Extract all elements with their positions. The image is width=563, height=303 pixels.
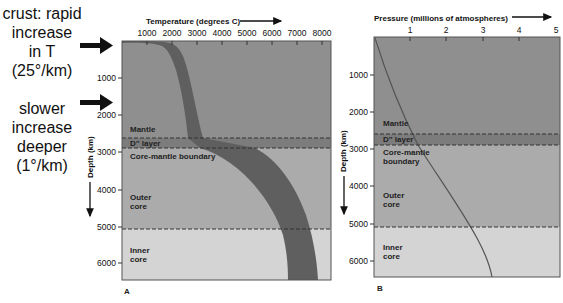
panel-b-y-ticks	[370, 75, 374, 261]
x-tick-label: 7000	[288, 28, 307, 38]
x-tick-label: 3	[481, 25, 486, 35]
outer-core-label: Outer	[130, 193, 151, 202]
x-tick-label: 4	[517, 25, 522, 35]
y-tick-label: 1000	[349, 70, 368, 80]
x-tick-label: 2000	[163, 28, 182, 38]
x-tick-label: 2	[444, 25, 449, 35]
x-axis-title: Pressure (millions of atmospheres)	[374, 14, 508, 23]
d-layer-label: D" layer	[383, 135, 413, 144]
y-axis-title: Depth (km)	[86, 136, 95, 178]
y-tick-label: 4000	[349, 181, 368, 191]
cmb-label: Core-mantle boundary	[130, 152, 216, 161]
d-layer-label: D" layer	[130, 139, 160, 148]
mantle-label: Mantle	[130, 125, 156, 134]
panel-a-temperature: 1000 2000 3000 4000 5000 6000 7000 8000 …	[86, 17, 332, 296]
y-axis-title: Depth (km)	[339, 130, 348, 172]
y-tick-label: 1000	[97, 73, 116, 83]
mantle-label: Mantle	[383, 119, 409, 128]
outer-core-label: core	[130, 202, 147, 211]
panel-b-letter: B	[377, 284, 383, 293]
y-tick-label: 5000	[97, 222, 116, 232]
inner-core-label: Inner	[130, 246, 150, 255]
crust-arrow-icon	[80, 37, 113, 54]
inner-core-label: core	[383, 252, 400, 261]
panel-a-y-ticks	[118, 78, 122, 263]
outer-core-label: Outer	[383, 191, 404, 200]
y-tick-label: 2000	[97, 110, 116, 120]
y-tick-label: 3000	[97, 147, 116, 157]
x-axis-title: Temperature (degrees C)	[146, 17, 240, 26]
y-tick-label: 3000	[349, 144, 368, 154]
inner-core-label: Inner	[383, 243, 403, 252]
deeper-arrow-icon	[80, 94, 113, 111]
y-tick-label: 6000	[97, 258, 116, 268]
panel-b-pressure: 1 2 3 4 5 Pressure (millions of atmosphe…	[339, 14, 560, 293]
x-tick-label: 5	[554, 25, 559, 35]
y-tick-label: 4000	[97, 185, 116, 195]
cmb-label: Core-mantle	[383, 148, 430, 157]
cmb-label: boundary	[383, 157, 420, 166]
inner-core-label: core	[130, 255, 147, 264]
x-tick-label: 8000	[313, 28, 332, 38]
x-tick-label: 1000	[138, 28, 157, 38]
x-tick-label: 5000	[238, 28, 257, 38]
y-tick-label: 6000	[349, 256, 368, 266]
y-tick-label: 2000	[349, 107, 368, 117]
mantle-layer	[122, 41, 331, 138]
x-tick-label: 4000	[213, 28, 232, 38]
x-tick-label: 6000	[263, 28, 282, 38]
outer-core-label: core	[383, 200, 400, 209]
x-tick-label: 3000	[188, 28, 207, 38]
panel-a-letter: A	[124, 287, 130, 296]
x-tick-label: 1	[408, 25, 413, 35]
inner-core-layer	[374, 227, 560, 277]
y-tick-label: 5000	[349, 219, 368, 229]
diagram-canvas: 1000 2000 3000 4000 5000 6000 7000 8000 …	[0, 0, 563, 303]
